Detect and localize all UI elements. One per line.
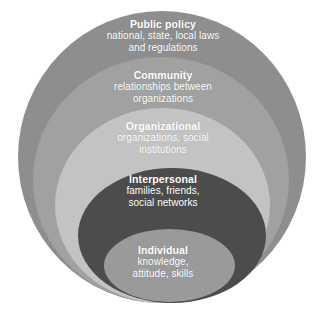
label-interpersonal-desc-line2: social networks <box>0 197 326 209</box>
label-interpersonal-desc-line1: families, friends, <box>0 185 326 197</box>
label-public-policy: Public policy national, state, local law… <box>0 18 326 54</box>
label-organizational-desc-line1: organizations, social <box>0 132 326 144</box>
label-community-desc-line2: organizations <box>0 93 326 105</box>
socio-ecological-model-diagram: Public policy national, state, local law… <box>0 0 326 319</box>
label-individual-desc-line1: knowledge, <box>0 256 326 268</box>
label-organizational-desc-line2: institutions <box>0 144 326 156</box>
label-individual-desc-line2: attitude, skills <box>0 268 326 280</box>
label-public-policy-desc-line1: national, state, local laws <box>0 30 326 42</box>
label-interpersonal-title: Interpersonal <box>0 173 326 185</box>
label-individual: Individual knowledge, attitude, skills <box>0 244 326 280</box>
label-public-policy-title: Public policy <box>0 18 326 30</box>
label-public-policy-desc-line2: and regulations <box>0 42 326 54</box>
label-community: Community relationships between organiza… <box>0 69 326 105</box>
label-community-desc-line1: relationships between <box>0 81 326 93</box>
label-community-title: Community <box>0 69 326 81</box>
label-interpersonal: Interpersonal families, friends, social … <box>0 173 326 209</box>
label-organizational-title: Organizational <box>0 120 326 132</box>
label-organizational: Organizational organizations, social ins… <box>0 120 326 156</box>
label-individual-title: Individual <box>0 244 326 256</box>
